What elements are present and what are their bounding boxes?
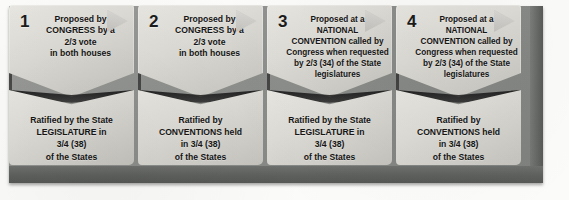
ratification-line: in 3/4 (38) [142,138,259,150]
ratification-line: LEGISLATURE in [271,126,388,138]
proposal-line: 2/3 vote [160,37,259,48]
proposal-line: Congress when requested [286,47,389,58]
ratification-card-1[interactable]: Ratified by the State LEGISLATURE in 3/4… [9,90,134,165]
ratification-line: 3/4 (38) [271,138,388,150]
ratification-line: Ratified by the State [271,114,388,126]
panel-right-shadow [530,6,543,183]
amendment-method-column-4: 4 Proposed at a NATIONAL CONVENTION call… [396,5,521,165]
amendment-method-column-3: 3 Proposed at a NATIONAL CONVENTION call… [267,5,392,165]
ratification-text-2: Ratified by CONVENTIONS held in 3/4 (38)… [142,114,259,163]
panel-bottom-shadow [9,166,543,183]
amendment-method-column-2: 2 Proposed by CONGRESS by a 2/3 vote in … [138,5,263,165]
ratification-line: Ratified by [400,114,517,126]
proposal-card-1[interactable]: 1 Proposed by CONGRESS by a 2/3 vote in … [9,5,134,97]
proposal-line: Congress when requested [415,47,518,58]
ratification-line: of the States [142,151,259,163]
proposal-card-4[interactable]: 4 Proposed at a NATIONAL CONVENTION call… [396,5,521,97]
ratification-text-4: Ratified by CONVENTIONS held in 3/4 (38)… [400,114,517,163]
proposal-line: by 2/3 (34) of the State [286,58,389,69]
proposal-line: CONVENTION called by [415,36,518,47]
ratification-card-2[interactable]: Ratified by CONVENTIONS held in 3/4 (38)… [138,90,263,165]
ratification-text-3: Ratified by the State LEGISLATURE in 3/4… [271,114,388,163]
proposal-line: legislatures [286,69,389,80]
method-number-2: 2 [149,12,158,32]
ratification-line: CONVENTIONS held [400,126,517,138]
ratification-line: Ratified by [142,114,259,126]
proposal-line: in both houses [31,48,130,59]
proposal-card-3[interactable]: 3 Proposed at a NATIONAL CONVENTION call… [267,5,392,97]
ratification-line: Ratified by the State [13,114,130,126]
ratification-card-3[interactable]: Ratified by the State LEGISLATURE in 3/4… [267,90,392,165]
ratification-card-4[interactable]: Ratified by CONVENTIONS held in 3/4 (38)… [396,90,521,165]
ratification-line: 3/4 (38) [13,138,130,150]
ratification-line: of the States [13,151,130,163]
ratification-text-1: Ratified by the State LEGISLATURE in 3/4… [13,114,130,163]
amendment-method-columns: 1 Proposed by CONGRESS by a 2/3 vote in … [9,5,521,165]
proposal-line: in both houses [160,48,259,59]
ratification-line: CONVENTIONS held [142,126,259,138]
proposal-line: by 2/3 (34) of the State [415,58,518,69]
scanned-page: 1 Proposed by CONGRESS by a 2/3 vote in … [0,0,569,200]
proposal-line: CONVENTION called by [286,36,389,47]
amendment-method-column-1: 1 Proposed by CONGRESS by a 2/3 vote in … [9,5,134,165]
proposal-card-2[interactable]: 2 Proposed by CONGRESS by a 2/3 vote in … [138,5,263,97]
proposal-line: legislatures [415,69,518,80]
method-number-1: 1 [20,12,29,32]
ratification-line: of the States [400,151,517,163]
ratification-line: in 3/4 (38) [400,138,517,150]
ratification-line: LEGISLATURE in [13,126,130,138]
ratification-line: of the States [271,151,388,163]
proposal-line: 2/3 vote [31,37,130,48]
